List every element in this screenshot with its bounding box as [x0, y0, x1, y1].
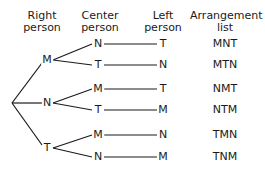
left-node: T [159, 38, 168, 50]
arrangement-item: TMN [212, 129, 238, 141]
right-node-m: M [41, 54, 53, 66]
arrangement-item: TNM [212, 151, 238, 163]
center-node: M [92, 83, 104, 95]
arrangement-item: NTM [212, 104, 238, 116]
center-node: M [92, 129, 104, 141]
arrangement-item: MTN [212, 59, 238, 71]
center-node: T [94, 104, 103, 116]
center-node: N [93, 151, 103, 163]
center-node: T [94, 59, 103, 71]
left-node: T [159, 83, 168, 95]
left-node: M [157, 151, 169, 163]
right-node-t: T [43, 142, 52, 154]
center-node: N [93, 38, 103, 50]
right-node-n: N [42, 97, 52, 109]
arrangement-item: NMT [212, 83, 238, 95]
left-node: M [157, 104, 169, 116]
left-node: N [158, 129, 168, 141]
arrangement-item: MNT [212, 38, 238, 50]
left-node: N [158, 59, 168, 71]
